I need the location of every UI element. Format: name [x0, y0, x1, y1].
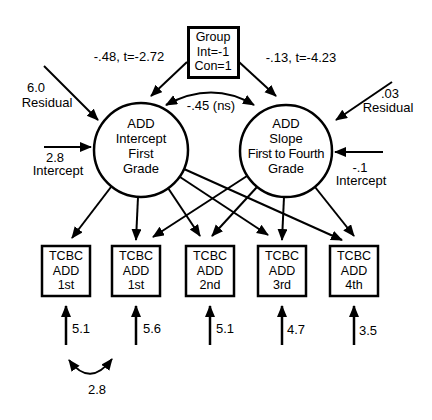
text-line: Slope [248, 131, 324, 146]
text-line: Group [194, 30, 231, 45]
text-line: Intercept [116, 131, 167, 146]
group-to-slope-coefficient: -.13, t=-4.23 [266, 51, 336, 65]
text-line: 2nd [193, 278, 227, 293]
text-line: ADD [49, 264, 83, 279]
indicator-5-residual-value: 3.5 [359, 324, 377, 338]
text-line: ADD [337, 264, 371, 279]
intercept-residual-label: Residual [22, 96, 73, 110]
text-line: ADD [116, 116, 167, 131]
indicator-residual-arrows [66, 306, 354, 345]
text-line: TCBC [337, 249, 371, 264]
text-line: ADD [193, 264, 227, 279]
indicator-5-label: TCBC ADD 4th [337, 249, 371, 293]
indicator-2-label: TCBC ADD 1st [119, 249, 153, 293]
latent-covariance-label: -.45 (ns) [187, 99, 235, 113]
text-line: 3rd [265, 278, 299, 293]
text-line: 4th [337, 278, 371, 293]
text-line: Grade [116, 161, 167, 176]
text-line: Grade [248, 161, 324, 176]
intercept-latent-label: ADD Intercept First Grade [116, 116, 167, 176]
text-line: First [116, 146, 167, 161]
intercept-mean-label: Intercept [33, 164, 84, 178]
text-line: 1st [119, 278, 153, 293]
indicator-1-label: TCBC ADD 1st [49, 249, 83, 293]
slope-mean-label: Intercept [336, 174, 387, 188]
slope-residual-value: .03 [381, 87, 399, 101]
slope-residual-label: Residual [363, 101, 414, 115]
text-line: TCBC [119, 249, 153, 264]
indicator-1-residual-value: 5.1 [72, 322, 90, 336]
slope-latent-label: ADD Slope First to Fourth Grade [248, 116, 324, 176]
indicator-3-label: TCBC ADD 2nd [193, 249, 227, 293]
text-line: TCBC [265, 249, 299, 264]
text-line: TCBC [193, 249, 227, 264]
indicator-residual-covariance-arc [69, 359, 112, 374]
text-line: ADD [265, 264, 299, 279]
text-line: Int=-1 [194, 45, 231, 60]
group-node-label: Group Int=-1 Con=1 [194, 30, 231, 74]
indicator-residual-covariance-value: 2.8 [88, 383, 106, 397]
indicator-4-residual-value: 4.7 [287, 323, 305, 337]
text-line: First to Fourth [248, 146, 324, 161]
indicator-2-residual-value: 5.6 [143, 322, 161, 336]
text-line: ADD [248, 116, 324, 131]
text-line: ADD [119, 264, 153, 279]
text-line: Con=1 [194, 59, 231, 74]
indicator-3-residual-value: 5.1 [216, 322, 234, 336]
text-line: TCBC [49, 249, 83, 264]
indicator-4-label: TCBC ADD 3rd [265, 249, 299, 293]
group-to-intercept-coefficient: -.48, t=-2.72 [94, 50, 164, 64]
sem-path-diagram: Group Int=-1 Con=1 -.48, t=-2.72 -.13, t… [0, 0, 432, 420]
text-line: 1st [49, 278, 83, 293]
intercept-residual-value: 6.0 [27, 81, 45, 95]
